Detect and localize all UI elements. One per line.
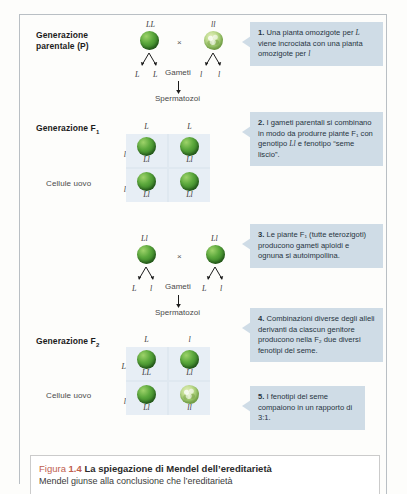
- f2-punnett-cell: ll: [169, 382, 210, 415]
- f1cross-left-seed-smooth-icon: [137, 245, 156, 264]
- f2-cell-genotype: ll: [169, 403, 210, 412]
- parental-gameti-label: Gameti: [165, 68, 191, 77]
- f1cross-left-gamete-1: L: [132, 284, 136, 293]
- f1-punnett-cell: Ll: [126, 169, 167, 202]
- f2-cell-genotype: Ll: [169, 368, 210, 377]
- parental-label-line2: parentale (P): [36, 41, 89, 51]
- f1-cell-genotype: Ll: [169, 190, 210, 199]
- f2-cell-seed-smooth-icon: [137, 385, 156, 404]
- parental-generation-label: Generazione parentale (P): [36, 30, 89, 52]
- callout-5-text-a: I fenotipi del seme compaiono in un rapp…: [258, 392, 352, 422]
- f1-cell-seed-smooth-icon: [137, 137, 156, 156]
- f1-cell-seed-smooth-icon: [180, 172, 199, 191]
- parent-right-seed-wrinkled-icon: [204, 31, 223, 50]
- f2-column-header-2: l: [169, 335, 210, 344]
- callout-4-text-a: Combinazioni diverse degli alleli deriva…: [258, 314, 375, 355]
- callout-1-allele-a: L: [356, 28, 360, 37]
- f1-label-text: Generazione F: [36, 123, 96, 133]
- f2-label-text: Generazione F: [36, 336, 96, 346]
- f1-cell-genotype: Ll: [126, 190, 167, 199]
- callout-4: 4. Combinazioni diverse degli alleli der…: [250, 308, 383, 362]
- f1cross-right-gamete-2: l: [220, 284, 222, 293]
- f2-row-header-1: L: [114, 362, 126, 371]
- f1-row-header-2: l: [114, 185, 126, 194]
- f1cross-left-gamete-split-arrow-icon: [135, 267, 157, 281]
- page-right-rule: [386, 14, 387, 494]
- f2-cell-seed-smooth-icon: [137, 350, 156, 369]
- f2-cell-seed-smooth-icon: [180, 350, 199, 369]
- f1cross-left-genotype: Ll: [141, 234, 148, 243]
- parent-left-seed-smooth-icon: [140, 31, 159, 50]
- f1-cell-genotype: Ll: [169, 155, 210, 164]
- figure-caption-title: La spiegazione di Mendel dell’ereditarie…: [84, 463, 271, 474]
- f2-punnett-cell: Ll: [126, 382, 167, 415]
- callout-5: 5. I fenotipi del seme compaiono in un r…: [250, 386, 365, 430]
- figure-caption-body: Mendel giunse alla conclusione che l’ere…: [39, 475, 371, 488]
- f2-punnett-cell: LL: [126, 347, 167, 380]
- f2-punnett-cell: Ll: [169, 347, 210, 380]
- parental-spermatozoi-label: Spermatozoi: [155, 94, 200, 103]
- callout-1: 1. Una pianta omozigote per L viene incr…: [250, 22, 383, 66]
- f1-cell-genotype: Ll: [126, 155, 167, 164]
- f1-column-header-2: L: [169, 122, 210, 131]
- figure-caption-prefix: Figura: [39, 463, 66, 474]
- f1-egg-cells-label: Cellule uovo: [46, 178, 91, 189]
- parental-left-gamete-2: L: [153, 70, 157, 79]
- f2-cell-genotype: Ll: [126, 403, 167, 412]
- parental-right-gamete-2: l: [218, 70, 220, 79]
- parental-label-line1: Generazione: [36, 30, 88, 40]
- parental-gameti-down-arrow-icon: [175, 80, 182, 93]
- f1-punnett-cell: Ll: [169, 169, 210, 202]
- f1cross-gameti-label: Gameti: [165, 282, 191, 291]
- parent-left-gamete-split-arrow-icon: [138, 53, 160, 67]
- parental-left-gamete-1: L: [135, 70, 139, 79]
- parental-cross-symbol: ×: [177, 38, 182, 47]
- f2-punnett-square: LL Ll Ll ll: [126, 347, 210, 415]
- f2-column-header-1: L: [126, 335, 167, 344]
- f1-row-header-1: l: [114, 150, 126, 159]
- f1-cell-seed-smooth-icon: [180, 137, 199, 156]
- f1cross-right-seed-smooth-icon: [206, 245, 225, 264]
- f1-label-subscript: 1: [96, 129, 99, 135]
- parental-right-gamete-1: l: [200, 70, 202, 79]
- f1cross-right-gamete-1: L: [202, 284, 206, 293]
- f1-punnett-square: Ll Ll Ll Ll: [126, 134, 210, 202]
- callout-2: 2. I gameti parentali si combinano in mo…: [250, 112, 383, 166]
- f2-label-subscript: 2: [96, 342, 99, 348]
- f1-cell-seed-smooth-icon: [137, 172, 156, 191]
- f1cross-spermatozoi-label: Spermatozoi: [155, 308, 200, 317]
- f2-cell-genotype: LL: [126, 368, 167, 377]
- callout-1-text-a: Una pianta omozigote per: [264, 28, 355, 37]
- f1cross-right-gamete-split-arrow-icon: [204, 267, 226, 281]
- parent-right-gamete-split-arrow-icon: [202, 53, 224, 67]
- f1-punnett-cell: Ll: [126, 134, 167, 167]
- f2-cell-seed-wrinkled-icon: [180, 385, 199, 404]
- figure-caption-title-line: Figura 1.4 La spiegazione di Mendel dell…: [39, 462, 371, 475]
- f2-row-header-2: l: [114, 397, 126, 406]
- f2-generation-label: Generazione F2: [36, 336, 99, 351]
- parent-left-genotype: LL: [146, 20, 155, 29]
- figure-caption: Figura 1.4 La spiegazione di Mendel dell…: [30, 455, 380, 494]
- f1-generation-label: Generazione F1: [36, 123, 99, 138]
- f1cross-left-gamete-2: l: [150, 284, 152, 293]
- f1cross-right-genotype: Ll: [211, 234, 218, 243]
- f2-egg-cells-label: Cellule uovo: [46, 390, 91, 401]
- f1cross-cross-symbol: ×: [177, 252, 182, 261]
- f1cross-gameti-down-arrow-icon: [175, 294, 182, 307]
- callout-3-text-a: Le piante F₁ (tutte eterozigoti) produco…: [258, 230, 366, 260]
- callout-1-allele-b: l: [308, 49, 310, 58]
- f1-punnett-cell: Ll: [169, 134, 210, 167]
- f1-column-header-1: L: [126, 122, 167, 131]
- figure-caption-number: 1.4: [69, 463, 82, 474]
- callout-3: 3. Le piante F₁ (tutte eterozigoti) prod…: [250, 224, 383, 268]
- parent-right-genotype: ll: [211, 20, 215, 29]
